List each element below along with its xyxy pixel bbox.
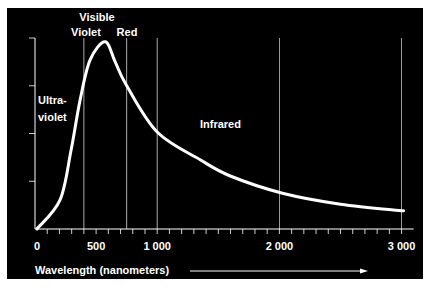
annotation-visible: Visible bbox=[79, 11, 114, 23]
annotation-ultra: Ultra- bbox=[38, 94, 67, 106]
x-tick-label-3000: 3 000 bbox=[388, 240, 416, 252]
x-tick-label-1000: 1 000 bbox=[143, 240, 171, 252]
x-tick-label-0: 0 bbox=[34, 240, 40, 252]
annotation-violet: violet bbox=[38, 111, 67, 123]
annotation-red: Red bbox=[117, 26, 138, 38]
x-tick-label-2000: 2 000 bbox=[266, 240, 294, 252]
x-tick-label-500: 500 bbox=[87, 240, 105, 252]
annotation-violet: Violet bbox=[71, 26, 101, 38]
chart-background bbox=[7, 8, 423, 279]
x-axis-label: Wavelength (nanometers) bbox=[35, 264, 169, 276]
annotation-infrared: Infrared bbox=[200, 118, 241, 130]
spectrum-chart: 05001 0002 0003 000 VisibleVioletRedUltr… bbox=[0, 0, 428, 290]
